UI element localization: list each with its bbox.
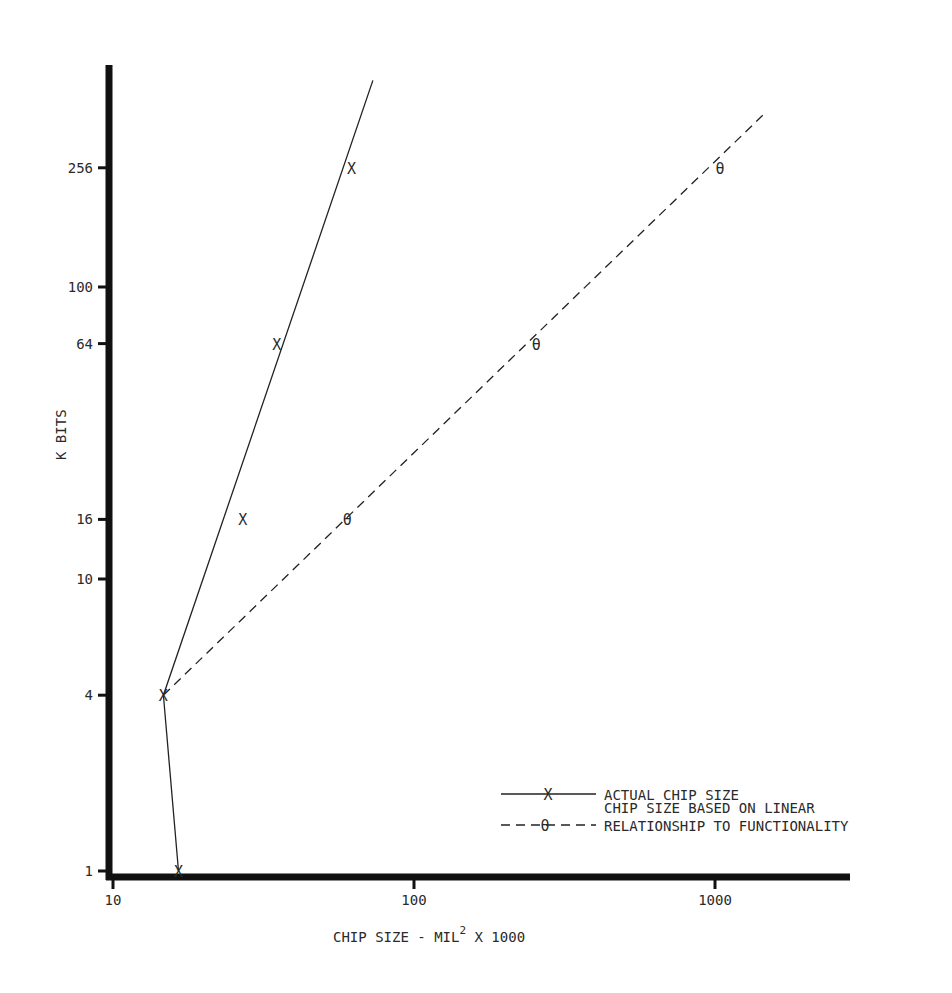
chart-canvas: 14101664100256 101001000 K BITS CHIP SIZ… — [0, 0, 952, 993]
x-axis-title: CHIP SIZE - MIL2 X 1000 — [333, 924, 525, 945]
legend-label-linear-1: CHIP SIZE BASED ON LINEAR — [604, 800, 815, 816]
x-tick-label: 10 — [105, 892, 122, 908]
y-tick-label: 256 — [68, 160, 93, 176]
x-tick-label: 1000 — [698, 892, 732, 908]
x-axis-title-tail: X 1000 — [466, 929, 525, 945]
x-marker: X — [238, 511, 247, 529]
y-axis-title: K BITS — [53, 409, 69, 460]
x-axis-ticks: 101001000 — [105, 877, 732, 908]
theta-marker: θ — [532, 336, 541, 354]
theta-marker: θ — [343, 511, 352, 529]
y-tick-label: 1 — [85, 863, 93, 879]
x-marker: X — [174, 863, 183, 881]
x-marker: X — [159, 687, 168, 705]
legend-x-marker: X — [543, 786, 552, 804]
x-tick-label: 100 — [401, 892, 426, 908]
y-tick-label: 100 — [68, 279, 93, 295]
legend-theta-marker: θ — [540, 817, 549, 835]
series-lines — [163, 80, 763, 871]
theta-marker: θ — [716, 160, 725, 178]
series-line-0 — [163, 80, 373, 871]
legend-label-linear-2: RELATIONSHIP TO FUNCTIONALITY — [604, 818, 849, 834]
y-tick-label: 4 — [85, 687, 93, 703]
y-tick-label: 64 — [76, 336, 93, 352]
series-line-1 — [163, 114, 763, 695]
series-markers: XXXXXθθθ — [159, 160, 725, 881]
x-axis-title-sup: 2 — [459, 924, 466, 937]
x-marker: X — [272, 336, 281, 354]
y-axis-ticks: 14101664100256 — [68, 160, 109, 879]
y-tick-label: 16 — [76, 511, 93, 527]
y-tick-label: 10 — [76, 571, 93, 587]
x-marker: X — [347, 160, 356, 178]
legend-item-linear: θ CHIP SIZE BASED ON LINEAR RELATIONSHIP… — [501, 800, 849, 835]
axes — [106, 65, 850, 880]
legend: X ACTUAL CHIP SIZE θ CHIP SIZE BASED ON … — [501, 786, 849, 835]
x-axis-title-main: CHIP SIZE - MIL — [333, 929, 459, 945]
